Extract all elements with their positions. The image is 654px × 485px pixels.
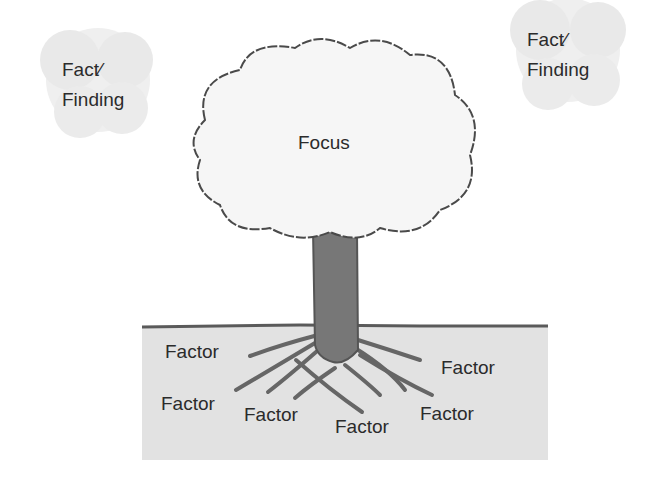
factor-label-1: Factor xyxy=(165,340,219,363)
fact-label-left-line2: Finding xyxy=(62,88,124,111)
fact-blob-right xyxy=(510,0,626,110)
factor-label-4: Factor xyxy=(244,403,298,426)
fact-blob-left xyxy=(40,28,153,138)
factor-label-6: Factor xyxy=(420,402,474,425)
focus-label: Focus xyxy=(298,131,350,154)
factor-label-2: Factor xyxy=(441,356,495,379)
fact-label-right-line2: Finding xyxy=(527,58,589,81)
fact-label-right-line1: Fact∕ xyxy=(527,28,567,51)
fact-label-left-line1: Fact∕ xyxy=(62,58,102,81)
trunk xyxy=(313,230,358,363)
factor-label-5: Factor xyxy=(335,415,389,438)
factor-label-3: Factor xyxy=(161,392,215,415)
